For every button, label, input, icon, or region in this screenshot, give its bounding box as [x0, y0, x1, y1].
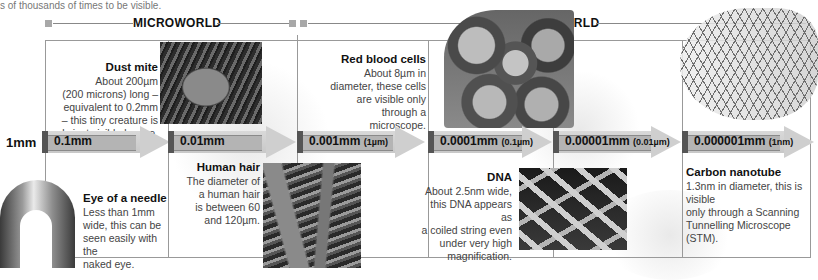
- divider: [53, 23, 133, 24]
- caption-line: magnification.: [420, 250, 512, 263]
- scale-arrow-0.000001mm: 0.000001mm (1nm): [682, 126, 816, 158]
- human-hair-caption: Human hair The diameter of a human hair …: [180, 160, 260, 227]
- divider: [217, 23, 289, 24]
- human-hair-image: [263, 163, 361, 268]
- caption-line: is between 60: [180, 201, 260, 214]
- intro-text: s of thousands of times to be visible.: [0, 0, 161, 11]
- human-hair-title: Human hair: [180, 160, 260, 175]
- arrow-head: [140, 126, 170, 158]
- dna-title: DNA: [420, 170, 512, 185]
- red-blood-cells-image: [444, 10, 574, 128]
- caption-line: Less than 1mm: [83, 206, 173, 219]
- caption-line: (200 microns) long –: [46, 88, 158, 101]
- scale-arrow-0.00001mm: 0.00001mm (0.01µm): [553, 126, 683, 158]
- caption-line: About 8µm in: [330, 67, 426, 80]
- scale-arrow-0.0001mm: 0.0001mm (0.1µm): [428, 126, 554, 158]
- eye-of-needle-title: Eye of a needle: [83, 191, 173, 206]
- arrow-head: [266, 126, 296, 158]
- caption-line: naked eye.: [83, 258, 173, 271]
- caption-line: diameter, these cells: [330, 80, 426, 93]
- dna-image: [519, 168, 627, 250]
- dna-caption: DNA About 2.5nm wide, this DNA appears a…: [420, 170, 512, 263]
- carbon-nanotube-image: [680, 8, 818, 120]
- red-blood-cells-caption: Red blood cells About 8µm in diameter, t…: [330, 52, 426, 132]
- caption-line: only through a Scanning: [686, 206, 816, 219]
- caption-line: wide, this can be: [83, 219, 173, 232]
- scale-start-label: 1mm: [6, 135, 36, 150]
- caption-line: seen easily with the: [83, 232, 173, 258]
- needle-eye-hole: [20, 210, 52, 268]
- caption-line: 1.3nm in diameter, this is visible: [686, 180, 816, 206]
- scale-label: 0.00001mm (0.01µm): [565, 134, 670, 148]
- dust-mite-image: [160, 42, 262, 124]
- carbon-nanotube-caption: Carbon nanotube 1.3nm in diameter, this …: [686, 165, 816, 245]
- scale-arrow-0.001mm: 0.001mm (1µm): [297, 126, 429, 158]
- caption-line: a human hair: [180, 188, 260, 201]
- scale-label: 0.000001mm (1nm): [694, 134, 793, 148]
- dust-mite-title: Dust mite: [46, 60, 158, 75]
- scale-label: 0.01mm: [180, 134, 225, 148]
- caption-line: The diameter of: [180, 175, 260, 188]
- caption-line: under very high: [420, 237, 512, 250]
- scale-arrow-0.1mm: 0.1mm: [42, 126, 170, 158]
- eye-of-needle-caption: Eye of a needle Less than 1mm wide, this…: [83, 191, 173, 271]
- carbon-nanotube-title: Carbon nanotube: [686, 165, 816, 180]
- caption-line: About 2.5nm wide,: [420, 185, 512, 198]
- marker-square: [300, 20, 307, 27]
- caption-line: About 200µm: [46, 75, 158, 88]
- eye-of-needle-image: [0, 180, 75, 268]
- scale-label: 0.1mm: [54, 134, 92, 148]
- scale-arrow-0.01mm: 0.01mm: [168, 126, 298, 158]
- red-blood-cells-title: Red blood cells: [330, 52, 426, 67]
- caption-line: a coiled string even: [420, 224, 512, 237]
- caption-line: this DNA appears as: [420, 198, 512, 224]
- microworld-title: MICROWORLD: [133, 16, 221, 30]
- scale-label: 0.0001mm (0.1µm): [440, 134, 533, 148]
- marker-square: [45, 20, 52, 27]
- caption-line: and 120µm.: [180, 214, 260, 227]
- caption-line: are visible only: [330, 93, 426, 106]
- caption-line: Tunnelling Microscope (STM).: [686, 219, 816, 245]
- arrow-head: [395, 126, 425, 158]
- marker-square: [289, 20, 296, 27]
- scale-label: 0.001mm (1µm): [309, 134, 388, 148]
- microworld-header: MICROWORLD: [45, 17, 300, 29]
- caption-line: equivalent to 0.2mm: [46, 101, 158, 114]
